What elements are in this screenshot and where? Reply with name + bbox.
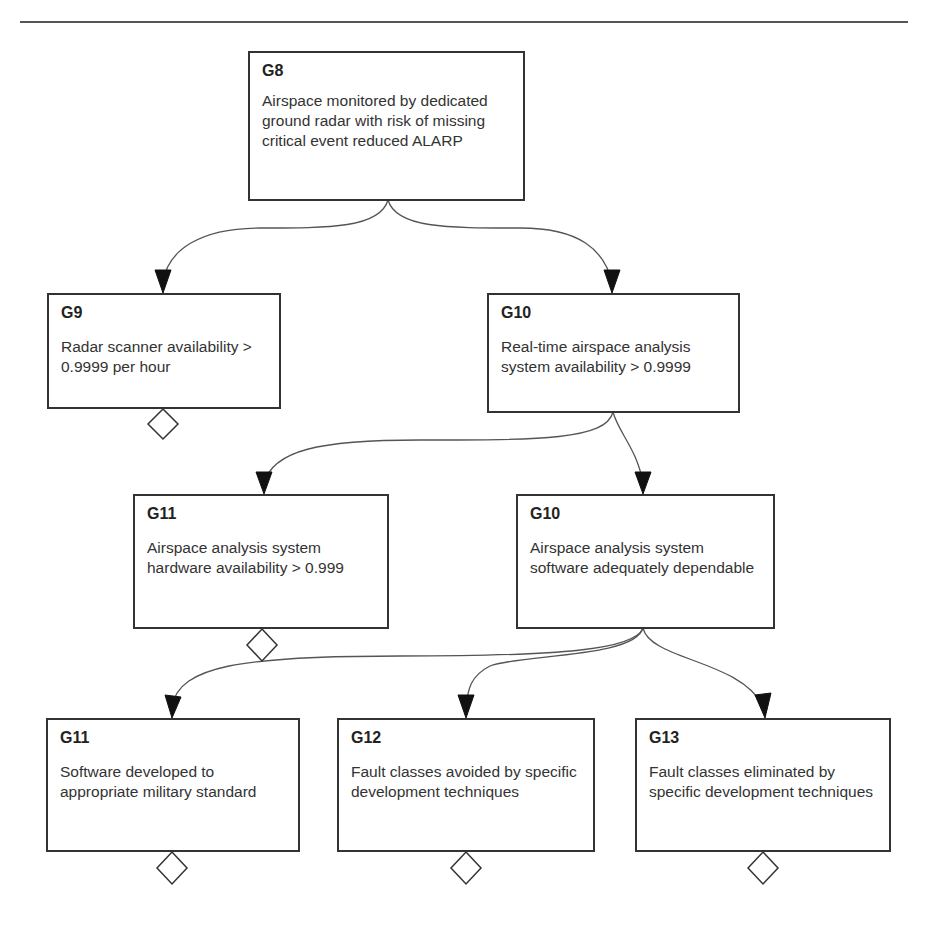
goal-text: Real-time airspace analysis system avail… xyxy=(501,337,728,377)
goal-g11-hardware: G11 Airspace analysis system hardware av… xyxy=(133,494,389,629)
goal-id: G8 xyxy=(262,61,513,81)
arrowhead-g9 xyxy=(155,270,171,293)
arrowhead-g10b xyxy=(635,472,651,494)
goal-id: G10 xyxy=(530,504,763,524)
link-g10b-g13 xyxy=(643,628,763,706)
goal-g12: G12 Fault classes avoided by specific de… xyxy=(337,718,595,852)
arrowhead-g13 xyxy=(755,693,771,718)
goal-id: G9 xyxy=(61,303,269,323)
goal-g8: G8 Airspace monitored by dedicated groun… xyxy=(248,51,525,201)
goal-g10-software: G10 Airspace analysis system software ad… xyxy=(516,494,775,629)
undeveloped-diamond-g12 xyxy=(451,852,481,884)
goal-g9: G9 Radar scanner availability > 0.9999 p… xyxy=(47,293,281,409)
goal-g10-realtime: G10 Real-time airspace analysis system a… xyxy=(487,293,740,413)
goal-text: Radar scanner availability > 0.9999 per … xyxy=(61,337,269,377)
undeveloped-diamond-g13 xyxy=(748,852,778,884)
link-g8-g9 xyxy=(163,200,388,282)
goal-id: G11 xyxy=(60,728,288,748)
goal-text: Fault classes eliminated by specific dev… xyxy=(649,762,879,802)
goal-id: G10 xyxy=(501,303,728,323)
arrowhead-g10a xyxy=(604,270,620,293)
link-g10a-g11a xyxy=(264,412,613,484)
goal-text: Airspace analysis system hardware availa… xyxy=(147,538,377,578)
goal-text: Airspace analysis system software adequa… xyxy=(530,538,763,578)
link-g8-g10a xyxy=(388,200,612,282)
arrowhead-g11a xyxy=(256,472,272,494)
link-g10b-g11b xyxy=(172,628,643,706)
arrowhead-g12 xyxy=(458,695,474,718)
goal-id: G11 xyxy=(147,504,377,524)
goal-g13: G13 Fault classes eliminated by specific… xyxy=(635,718,891,852)
goal-text: Fault classes avoided by specific develo… xyxy=(351,762,583,802)
goal-text: Airspace monitored by dedicated ground r… xyxy=(262,91,513,151)
goal-id: G13 xyxy=(649,728,879,748)
arrowhead-g11b xyxy=(165,695,181,718)
goal-id: G12 xyxy=(351,728,583,748)
undeveloped-diamond-g11b xyxy=(157,852,187,884)
link-g10b-g12 xyxy=(466,628,643,706)
undeveloped-diamond-g11a xyxy=(247,629,277,661)
undeveloped-diamond-g9 xyxy=(148,409,178,439)
goal-g11-military-standard: G11 Software developed to appropriate mi… xyxy=(46,718,300,852)
goal-text: Software developed to appropriate milita… xyxy=(60,762,288,802)
